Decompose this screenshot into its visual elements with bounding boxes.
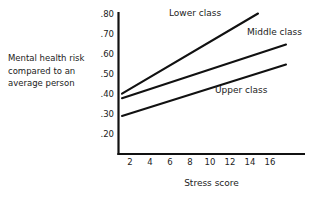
- x-axis-title: Stress score: [118, 178, 305, 188]
- x-tick-label-2: 2: [122, 157, 138, 167]
- x-tick-label-4: 4: [142, 157, 158, 167]
- x-tick-label-10: 10: [202, 157, 218, 167]
- mental-health-risk-line-chart: Mental health risk compared to an averag…: [0, 0, 325, 201]
- x-tick-label-12: 12: [222, 157, 238, 167]
- y-axis-title: Mental health risk compared to an averag…: [8, 52, 100, 90]
- series-label-middle-class: Middle class: [247, 27, 302, 37]
- y-tick-label-30: .30: [92, 109, 114, 119]
- y-tick-label-70: .70: [92, 29, 114, 39]
- x-tick-label-6: 6: [162, 157, 178, 167]
- x-tick-label-16: 16: [262, 157, 278, 167]
- y-tick-label-60: .60: [92, 49, 114, 59]
- series-label-lower-class: Lower class: [169, 8, 221, 18]
- y-tick-label-50: .50: [92, 69, 114, 79]
- series-label-upper-class: Upper class: [215, 85, 267, 95]
- y-tick-label-20: .20: [92, 129, 114, 139]
- series-line-lower-class: [122, 14, 258, 94]
- y-tick-label-40: .40: [92, 89, 114, 99]
- y-tick-label-80: .80: [92, 9, 114, 19]
- x-tick-label-8: 8: [182, 157, 198, 167]
- x-tick-label-14: 14: [242, 157, 258, 167]
